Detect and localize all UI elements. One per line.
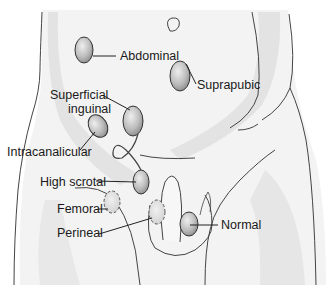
- label-femoral: Femoral: [57, 202, 103, 216]
- label-perineal: Perineal: [57, 226, 103, 240]
- label-intracanalicular: Intracanalicular: [7, 145, 92, 159]
- label-superficial: Superficial: [50, 88, 108, 102]
- perineal-testis: [149, 200, 165, 224]
- label-normal: Normal: [221, 218, 261, 232]
- superficial-inguinal-testis: [123, 106, 143, 136]
- label-abdominal: Abdominal: [120, 49, 179, 63]
- label-inguinal: inguinal: [68, 102, 111, 116]
- label-suprapubic: Suprapubic: [197, 78, 260, 92]
- femoral-testis: [104, 191, 120, 213]
- abdominal-testis: [75, 37, 93, 63]
- normal-testis: [180, 212, 198, 236]
- label-high-scrotal: High scrotal: [40, 175, 106, 189]
- testis-position-diagram: Abdominal Suprapubic Superficial inguina…: [0, 0, 332, 299]
